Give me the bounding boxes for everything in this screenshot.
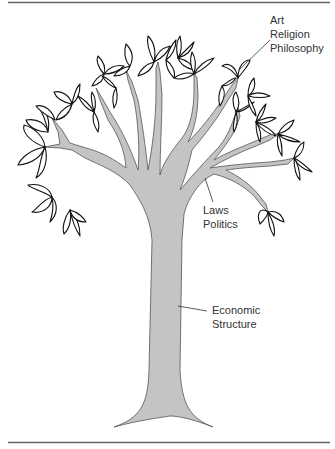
label-philosophy: Philosophy — [270, 41, 324, 55]
label-art: Art — [270, 13, 324, 27]
leader-economic — [178, 306, 207, 311]
label-structure: Structure — [212, 317, 260, 331]
label-religion: Religion — [270, 27, 324, 41]
label-economic: Economic — [212, 303, 260, 317]
leader-art — [239, 40, 270, 70]
label-art-religion-philosophy: Art Religion Philosophy — [270, 13, 324, 55]
label-laws: Laws — [203, 203, 238, 217]
label-economic-structure: Economic Structure — [212, 303, 260, 331]
label-politics: Politics — [203, 217, 238, 231]
leader-laws — [205, 178, 213, 202]
label-laws-politics: Laws Politics — [203, 203, 238, 231]
tree-trunk — [45, 62, 294, 427]
tree-diagram — [0, 0, 335, 449]
